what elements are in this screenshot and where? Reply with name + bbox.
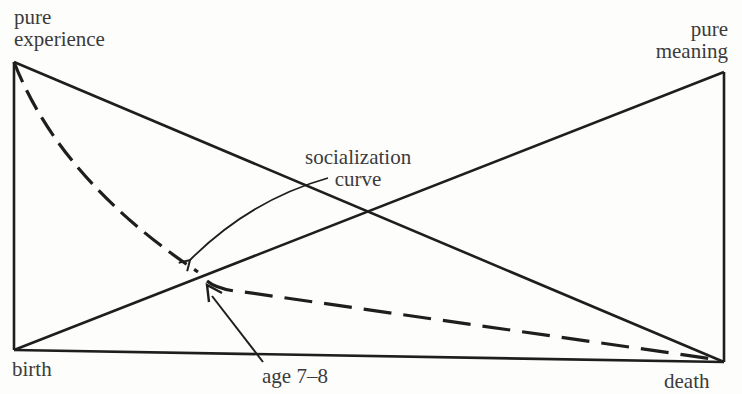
pure-experience-label: pure experience [14, 6, 105, 50]
pure-experience-label-line1: pure [14, 6, 105, 28]
socialization-curve-label: socialization curve [305, 146, 411, 190]
pure-meaning-label-line2: meaning [656, 40, 728, 62]
age-arrow-icon [212, 296, 263, 362]
socialization-curve-late [207, 281, 720, 360]
socialization-curve-early [14, 62, 198, 272]
socialization-label-line1: socialization [305, 146, 411, 168]
pure-meaning-label: pure meaning [656, 18, 728, 62]
life-diagram [0, 0, 742, 394]
socialization-label-line2: curve [305, 168, 411, 190]
birth-label: birth [12, 358, 52, 380]
pure-meaning-label-line1: pure [656, 18, 728, 40]
age-label: age 7–8 [262, 365, 328, 387]
baseline [14, 350, 724, 362]
death-label: death [664, 370, 709, 392]
socialization-arrow-icon [190, 178, 328, 260]
pure-experience-label-line2: experience [14, 28, 105, 50]
